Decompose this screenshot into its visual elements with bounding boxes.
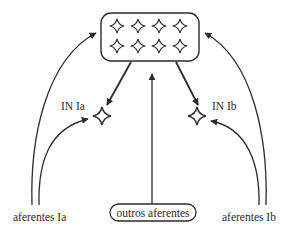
arrow-aferentes-ib-to-pool	[205, 33, 266, 205]
outros-aferentes-label: outros aferentes	[116, 207, 190, 219]
diagram-canvas: IN Ia IN Ib outros aferentes aferentes I…	[0, 0, 299, 237]
motor-pool-box	[101, 13, 199, 61]
interneuron-ib-icon	[188, 107, 206, 125]
arrow-aferentes-ib-to-in-ib	[211, 121, 259, 205]
in-ia-label: IN Ia	[61, 100, 85, 112]
aferentes-ib-label: aferentes Ib	[222, 211, 276, 223]
arrow-aferentes-ia-to-in-ia	[39, 119, 88, 205]
interneuron-ia-icon	[93, 107, 111, 125]
arrow-pool-to-in-ib	[176, 62, 198, 105]
in-ib-label: IN Ib	[212, 100, 237, 112]
aferentes-ia-label: aferentes Ia	[13, 211, 66, 223]
arrow-pool-to-in-ia	[107, 62, 131, 105]
